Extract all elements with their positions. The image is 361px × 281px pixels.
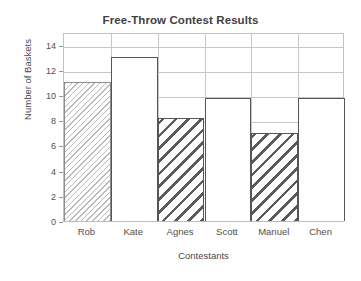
x-tick-label-kate: Kate — [110, 226, 157, 237]
bar-chart: Free-Throw Contest Results Number of Bas… — [0, 0, 361, 281]
y-tick-label: 4 — [20, 167, 56, 177]
x-tick-label-chen: Chen — [297, 226, 344, 237]
plot-area — [63, 33, 344, 222]
y-tick-mark — [59, 172, 63, 173]
chart-title: Free-Throw Contest Results — [0, 14, 361, 26]
y-tick-label: 12 — [20, 66, 56, 76]
y-tick-label: 2 — [20, 192, 56, 202]
y-tick-mark — [59, 222, 63, 223]
x-tick-label-scott: Scott — [204, 226, 251, 237]
gridline — [64, 47, 343, 48]
y-tick-label: 8 — [20, 116, 56, 126]
y-tick-mark — [59, 71, 63, 72]
bar-agnes — [158, 118, 205, 221]
y-tick-label: 0 — [20, 217, 56, 227]
x-axis-baseline — [63, 221, 344, 222]
y-tick-label: 10 — [20, 91, 56, 101]
y-tick-mark — [59, 96, 63, 97]
bar-scott — [205, 98, 252, 221]
bar-rob — [64, 82, 111, 221]
y-tick-label: 14 — [20, 41, 56, 51]
x-axis-label: Contestants — [63, 250, 344, 261]
y-tick-label: 6 — [20, 141, 56, 151]
bar-manuel — [251, 133, 298, 221]
x-tick-label-rob: Rob — [63, 226, 110, 237]
x-tick-label-manuel: Manuel — [250, 226, 297, 237]
y-tick-mark — [59, 197, 63, 198]
bar-kate — [111, 57, 158, 221]
gridline — [64, 72, 343, 73]
bar-chen — [298, 98, 345, 221]
x-tick-label-agnes: Agnes — [157, 226, 204, 237]
y-tick-mark — [59, 146, 63, 147]
y-tick-mark — [59, 46, 63, 47]
y-tick-mark — [59, 121, 63, 122]
